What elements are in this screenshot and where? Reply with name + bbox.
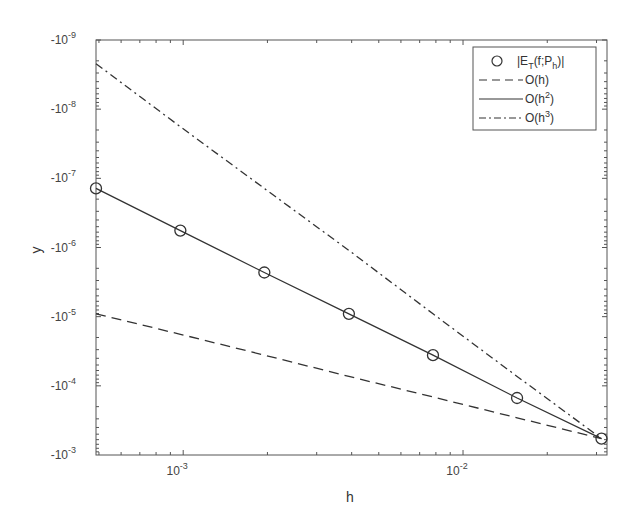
- x-tick-label: 10-3: [167, 461, 188, 478]
- chart: 10-310-2 -10-9-10-8-10-7-10-6-10-5-10-4-…: [0, 0, 642, 524]
- series-line-oh: [96, 314, 602, 439]
- series-line-oh2: [96, 188, 602, 438]
- y-tick-label: -10-5: [51, 307, 76, 324]
- y-tick-label: -10-6: [51, 238, 76, 255]
- y-tick-label: -10-3: [51, 445, 76, 462]
- y-tick-label: -10-8: [51, 99, 76, 116]
- y-tick-label: -10-7: [51, 168, 76, 185]
- x-axis-title: h: [346, 489, 354, 505]
- legend-label: O(h2): [525, 90, 554, 106]
- y-tick-label: -10-9: [51, 30, 76, 47]
- y-tick-label: -10-4: [51, 376, 76, 393]
- legend: |ET(f;Ph)|O(h)O(h2)O(h3): [473, 47, 596, 130]
- legend-label: O(h): [525, 73, 549, 87]
- x-tick-label: 10-2: [446, 461, 467, 478]
- y-axis-title: y: [28, 247, 44, 254]
- legend-label: O(h3): [525, 109, 554, 125]
